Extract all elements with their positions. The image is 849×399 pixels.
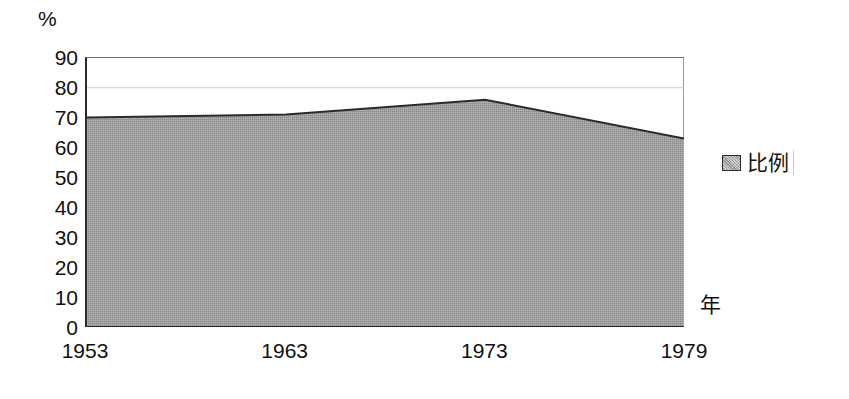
x-axis-title: 年 [700,294,721,316]
x-axis-tick-1953: 1953 [62,340,109,362]
y-axis-tick-80: 80 [32,77,78,98]
y-axis-tick-70: 70 [32,107,78,128]
area-series-比例 [87,100,684,326]
legend-swatch-icon [722,155,741,171]
area-chart: % 9080706050403020100 1953196319731979 年… [0,0,849,399]
x-axis-tick-1963: 1963 [261,340,308,362]
x-axis-tick-1973: 1973 [461,340,508,362]
y-axis-tick-10: 10 [32,287,78,308]
y-axis-tick-20: 20 [32,257,78,278]
y-axis-tick-90: 90 [32,47,78,68]
y-axis-tick-0: 0 [32,317,78,338]
plot-area [85,57,684,327]
y-axis-tick-40: 40 [32,197,78,218]
x-axis-tick-1979: 1979 [661,340,708,362]
plot-canvas [87,58,684,326]
y-axis-tick-50: 50 [32,167,78,188]
y-axis-tick-60: 60 [32,137,78,158]
legend: 比例 [720,150,794,175]
legend-item-label: 比例 [747,152,789,173]
y-axis-tick-30: 30 [32,227,78,248]
x-axis-tick-labels: 1953196319731979 [0,340,849,370]
